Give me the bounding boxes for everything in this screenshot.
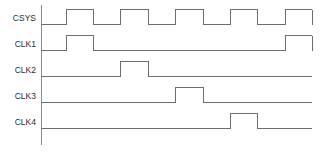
signal-label-csys: CSYS	[13, 13, 36, 23]
signal-label-clk4: CLK4	[15, 117, 37, 127]
timing-diagram: CSYSCLK1CLK2CLK3CLK4	[0, 0, 320, 156]
waveform-clk1	[41, 36, 312, 51]
waveform-clk3	[41, 88, 312, 103]
signal-label-group: CSYSCLK1CLK2CLK3CLK4	[13, 13, 36, 127]
waveform-clk2	[41, 62, 312, 77]
signal-label-clk3: CLK3	[15, 91, 37, 101]
timing-diagram-canvas: CSYSCLK1CLK2CLK3CLK4	[0, 0, 320, 156]
waveform-group	[41, 10, 312, 129]
signal-label-clk2: CLK2	[15, 65, 37, 75]
waveform-clk4	[41, 114, 312, 129]
signal-label-clk1: CLK1	[15, 39, 37, 49]
waveform-csys	[41, 10, 312, 25]
